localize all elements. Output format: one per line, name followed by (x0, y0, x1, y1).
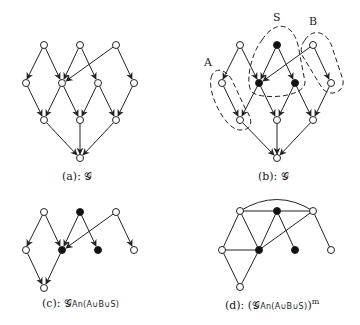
set-label-S: S (273, 11, 281, 24)
caption-b-prefix: (b): (258, 170, 281, 183)
caption-d-superscript: m (312, 297, 320, 306)
caption-a-prefix: (a): (62, 170, 84, 183)
figure-canvas (0, 0, 360, 325)
caption-c: (c): 𝒢An(A∪B∪S) (42, 297, 119, 310)
caption-a: (a): 𝒢 (62, 170, 92, 183)
caption-b-main: 𝒢 (281, 170, 289, 183)
caption-c-subscript: An(A∪B∪S) (72, 300, 119, 309)
caption-d: (d): (𝒢An(A∪B∪S))m (225, 297, 319, 312)
caption-c-prefix: (c): (42, 297, 64, 310)
caption-d-subscript: An(A∪B∪S) (260, 302, 307, 311)
caption-a-main: 𝒢 (84, 170, 92, 183)
caption-b: (b): 𝒢 (258, 170, 289, 183)
set-label-A: A (204, 56, 212, 69)
graph-a (26, 45, 134, 155)
graph-c (26, 212, 132, 284)
caption-d-prefix: (d): (225, 299, 248, 312)
caption-d-main: 𝒢 (252, 299, 260, 312)
graph-b (222, 45, 331, 155)
set-label-B: B (309, 15, 317, 28)
caption-c-main: 𝒢 (64, 297, 72, 310)
set-B-region (301, 33, 343, 93)
